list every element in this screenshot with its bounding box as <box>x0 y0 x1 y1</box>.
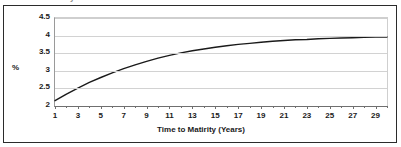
x-axis-tick-mark <box>273 106 274 108</box>
x-axis-tick-mark <box>215 106 216 109</box>
y-axis-tick-label: 4 <box>46 31 50 39</box>
x-axis-tick-label: 23 <box>302 111 311 120</box>
gridline <box>55 88 387 89</box>
y-axis-tick-label: 2.5 <box>39 83 50 91</box>
x-axis-tick-mark <box>55 106 56 109</box>
x-axis-tick-labels: 1357911131517192123252729 <box>55 111 387 122</box>
x-axis-tick-label: 5 <box>99 111 103 120</box>
x-axis-tick-marks <box>55 106 387 110</box>
y-axis-tick-label: 3.5 <box>39 48 50 56</box>
x-axis-tick-mark <box>295 106 296 108</box>
x-axis-tick-mark <box>250 106 251 108</box>
x-axis-tick-mark <box>387 106 388 108</box>
x-axis-tick-mark <box>89 106 90 108</box>
x-axis-tick-mark <box>78 106 79 109</box>
x-axis-tick-mark <box>204 106 205 108</box>
x-axis-tick-label: 27 <box>348 111 357 120</box>
x-axis-tick-mark <box>112 106 113 108</box>
chart-figure: y % 22.533.544.5 13579111315171921232527… <box>0 0 401 147</box>
x-axis-tick-label: 3 <box>76 111 80 120</box>
x-axis-tick-mark <box>192 106 193 109</box>
chart-frame: % 22.533.544.5 1357911131517192123252729… <box>3 5 397 143</box>
x-axis-tick-label: 21 <box>280 111 289 120</box>
gridline <box>55 36 387 37</box>
x-axis-tick-label: 1 <box>53 111 57 120</box>
x-axis-tick-mark <box>261 106 262 109</box>
x-axis-tick-mark <box>147 106 148 109</box>
plot-area <box>54 17 388 107</box>
x-axis-tick-mark <box>318 106 319 108</box>
x-axis-tick-mark <box>124 106 125 109</box>
x-axis-tick-mark <box>227 106 228 108</box>
gridline <box>55 71 387 72</box>
x-axis-tick-label: 15 <box>211 111 220 120</box>
x-axis-tick-mark <box>158 106 159 108</box>
x-axis-tick-mark <box>66 106 67 108</box>
x-axis-tick-mark <box>181 106 182 108</box>
x-axis-tick-label: 19 <box>257 111 266 120</box>
x-axis-tick-label: 29 <box>371 111 380 120</box>
x-axis-title: Time to Matirity (Years) <box>4 125 398 134</box>
x-axis-tick-mark <box>341 106 342 108</box>
x-axis-tick-mark <box>364 106 365 108</box>
x-axis-tick-mark <box>169 106 170 109</box>
yield-curve-line <box>55 18 387 106</box>
x-axis-tick-mark <box>376 106 377 109</box>
y-axis-tick-label: 3 <box>46 66 50 74</box>
x-axis-tick-label: 11 <box>165 111 173 120</box>
x-axis-tick-label: 13 <box>188 111 197 120</box>
gridline <box>55 18 387 19</box>
y-axis-tick-label: 2 <box>46 101 50 109</box>
x-axis-tick-mark <box>307 106 308 109</box>
x-axis-tick-mark <box>330 106 331 109</box>
x-axis-tick-mark <box>284 106 285 109</box>
x-axis-tick-mark <box>101 106 102 109</box>
clipped-top-text-label: y <box>70 0 74 2</box>
x-axis-tick-mark <box>238 106 239 109</box>
y-axis-tick-labels: 22.533.544.5 <box>14 17 50 105</box>
x-axis-tick-mark <box>135 106 136 108</box>
y-axis-tick-label: 4.5 <box>39 13 50 21</box>
x-axis-tick-label: 9 <box>144 111 148 120</box>
x-axis-tick-label: 25 <box>325 111 334 120</box>
x-axis-tick-label: 7 <box>121 111 125 120</box>
x-axis-tick-mark <box>353 106 354 109</box>
gridline <box>55 53 387 54</box>
x-axis-tick-label: 17 <box>234 111 243 120</box>
